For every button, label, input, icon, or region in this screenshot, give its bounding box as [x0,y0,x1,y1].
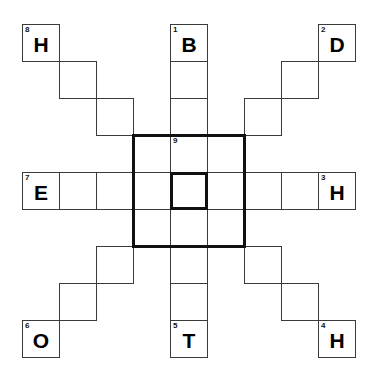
crossword-cell[interactable] [244,172,282,210]
crossword-cell[interactable]: 2D [318,24,356,62]
crossword-cell[interactable]: 5T [170,320,208,358]
crossword-cell[interactable] [96,172,134,210]
crossword-puzzle: 8H1B2D97E3H6O5T4H [0,0,373,389]
crossword-cell[interactable] [59,283,97,321]
crossword-cell[interactable] [59,61,97,99]
crossword-cell[interactable] [59,172,97,210]
cell-letter: O [23,321,59,357]
crossword-cell[interactable]: 3H [318,172,356,210]
cell-number: 9 [173,136,177,146]
cell-letter: B [171,25,207,61]
crossword-cell[interactable] [96,246,134,284]
crossword-cell[interactable] [281,283,319,321]
cell-letter: T [171,321,207,357]
crossword-grid[interactable]: 8H1B2D97E3H6O5T4H [0,0,373,389]
crossword-cell[interactable] [281,61,319,99]
crossword-cell[interactable] [96,98,134,136]
crossword-cell[interactable] [207,209,245,247]
crossword-cell[interactable]: 9 [170,135,208,173]
crossword-cell[interactable]: 8H [22,24,60,62]
crossword-cell[interactable] [170,283,208,321]
cell-letter: E [23,173,59,209]
crossword-cell[interactable] [207,172,245,210]
crossword-cell[interactable] [170,98,208,136]
cell-letter: H [319,173,355,209]
crossword-cell[interactable] [133,209,171,247]
crossword-cell[interactable] [170,61,208,99]
crossword-cell[interactable] [170,209,208,247]
crossword-cell[interactable] [207,135,245,173]
cell-letter: D [319,25,355,61]
crossword-cell[interactable] [244,246,282,284]
crossword-cell[interactable] [133,172,171,210]
crossword-cell[interactable] [170,172,208,210]
crossword-cell[interactable] [244,98,282,136]
crossword-cell[interactable]: 4H [318,320,356,358]
cell-letter: H [319,321,355,357]
crossword-cell[interactable]: 1B [170,24,208,62]
crossword-cell[interactable] [281,172,319,210]
crossword-cell[interactable]: 7E [22,172,60,210]
cell-letter: H [23,25,59,61]
crossword-cell[interactable] [133,135,171,173]
crossword-cell[interactable]: 6O [22,320,60,358]
crossword-cell[interactable] [170,246,208,284]
